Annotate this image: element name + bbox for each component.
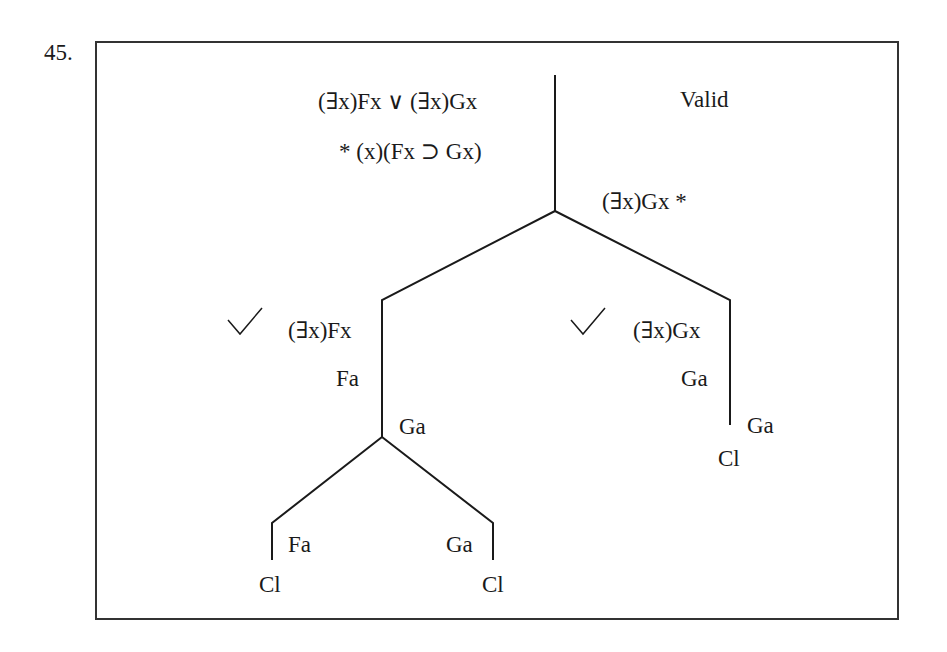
right-branch-leaf-line: Ga	[747, 414, 774, 437]
left-branch-line-2: Fa	[336, 367, 359, 390]
left-leaf-line: Fa	[288, 533, 311, 556]
left-leaf-closed: Cl	[259, 573, 281, 596]
verdict-label: Valid	[680, 88, 729, 111]
right-branch-line-2: Ga	[681, 367, 708, 390]
negated-conclusion: (∃x)Gx *	[602, 190, 687, 213]
left-branch-split-label: Ga	[399, 415, 426, 438]
premise-1: (∃x)Fx ∨ (∃x)Gx	[318, 90, 477, 113]
left-branch-line-1: (∃x)Fx	[288, 319, 352, 342]
right-branch-line-1: (∃x)Gx	[633, 319, 700, 342]
right-leaf-line: Ga	[446, 533, 473, 556]
premise-2: * (x)(Fx ⊃ Gx)	[339, 140, 482, 163]
right-leaf-closed: Cl	[482, 573, 504, 596]
right-branch-closed: Cl	[718, 447, 740, 470]
